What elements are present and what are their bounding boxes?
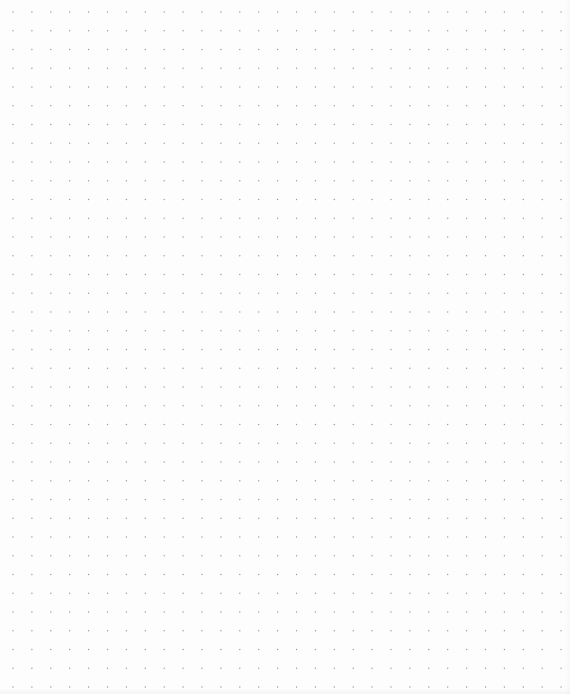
grid-dot xyxy=(164,611,165,612)
grid-dot xyxy=(504,68,505,69)
grid-dot xyxy=(107,330,108,331)
grid-dot xyxy=(447,443,448,444)
grid-dot xyxy=(164,218,165,219)
grid-dot xyxy=(107,443,108,444)
grid-dot xyxy=(164,180,165,181)
grid-dot xyxy=(315,536,316,537)
grid-dot xyxy=(182,68,183,69)
grid-dot xyxy=(466,255,467,256)
grid-dot xyxy=(220,105,221,106)
grid-dot xyxy=(466,11,467,12)
grid-dot xyxy=(258,236,259,237)
grid-dot xyxy=(258,686,259,687)
grid-dot xyxy=(353,386,354,387)
grid-dot xyxy=(315,143,316,144)
grid-dot xyxy=(296,480,297,481)
grid-dot xyxy=(258,49,259,50)
grid-dot xyxy=(334,630,335,631)
grid-dot xyxy=(277,86,278,87)
grid-dot xyxy=(504,293,505,294)
grid-dot xyxy=(69,574,70,575)
grid-dot xyxy=(88,161,89,162)
grid-dot xyxy=(12,236,13,237)
grid-dot xyxy=(164,255,165,256)
grid-dot xyxy=(182,574,183,575)
grid-dot xyxy=(466,574,467,575)
grid-dot xyxy=(390,480,391,481)
grid-dot xyxy=(201,461,202,462)
grid-dot xyxy=(201,499,202,500)
grid-dot xyxy=(164,68,165,69)
grid-dot xyxy=(390,518,391,519)
grid-dot xyxy=(277,480,278,481)
grid-dot xyxy=(466,124,467,125)
grid-dot xyxy=(542,180,543,181)
grid-dot xyxy=(390,499,391,500)
grid-dot xyxy=(31,30,32,31)
grid-dot xyxy=(201,443,202,444)
grid-dot xyxy=(239,611,240,612)
grid-dot xyxy=(315,124,316,125)
grid-dot xyxy=(560,236,561,237)
grid-dot xyxy=(409,686,410,687)
grid-dot xyxy=(182,424,183,425)
grid-dot xyxy=(50,386,51,387)
grid-dot xyxy=(334,255,335,256)
grid-dot xyxy=(542,311,543,312)
grid-dot xyxy=(523,349,524,350)
grid-dot xyxy=(126,368,127,369)
grid-dot xyxy=(107,593,108,594)
grid-dot xyxy=(107,668,108,669)
grid-dot xyxy=(220,480,221,481)
grid-dot xyxy=(523,255,524,256)
grid-dot xyxy=(371,386,372,387)
grid-dot xyxy=(277,349,278,350)
grid-dot xyxy=(201,518,202,519)
grid-dot xyxy=(485,143,486,144)
grid-dot xyxy=(523,686,524,687)
grid-dot xyxy=(31,86,32,87)
grid-dot xyxy=(523,611,524,612)
grid-dot xyxy=(164,124,165,125)
grid-dot xyxy=(353,630,354,631)
grid-dot xyxy=(126,105,127,106)
grid-dot xyxy=(409,311,410,312)
grid-dot xyxy=(107,293,108,294)
grid-dot xyxy=(201,330,202,331)
grid-dot xyxy=(542,461,543,462)
grid-dot xyxy=(31,630,32,631)
grid-dot xyxy=(390,293,391,294)
grid-dot xyxy=(371,368,372,369)
grid-dot xyxy=(447,311,448,312)
grid-dot xyxy=(220,668,221,669)
grid-dot xyxy=(164,461,165,462)
grid-dot xyxy=(126,686,127,687)
grid-dot xyxy=(201,161,202,162)
grid-dot xyxy=(334,105,335,106)
grid-dot xyxy=(164,86,165,87)
grid-dot xyxy=(542,236,543,237)
grid-dot xyxy=(277,311,278,312)
grid-dot xyxy=(485,405,486,406)
grid-dot xyxy=(353,293,354,294)
grid-dot xyxy=(164,349,165,350)
grid-dot xyxy=(258,443,259,444)
grid-dot xyxy=(334,668,335,669)
grid-dot xyxy=(107,274,108,275)
grid-dot xyxy=(182,86,183,87)
grid-dot xyxy=(296,124,297,125)
grid-dot xyxy=(69,686,70,687)
grid-dot xyxy=(239,199,240,200)
grid-dot xyxy=(334,199,335,200)
grid-dot xyxy=(296,386,297,387)
grid-dot xyxy=(201,668,202,669)
grid-dot xyxy=(428,143,429,144)
grid-dot xyxy=(504,668,505,669)
grid-dot xyxy=(466,405,467,406)
grid-dot xyxy=(485,11,486,12)
grid-dot xyxy=(409,199,410,200)
grid-dot xyxy=(447,349,448,350)
grid-dot xyxy=(371,555,372,556)
grid-dot xyxy=(258,274,259,275)
grid-dot xyxy=(182,461,183,462)
